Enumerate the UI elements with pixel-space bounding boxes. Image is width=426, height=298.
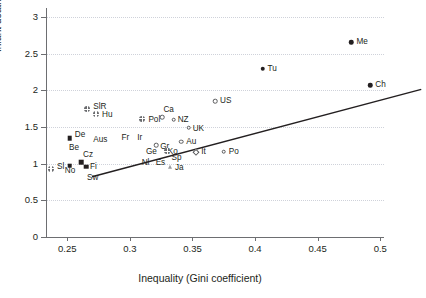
data-point-marker [154,143,159,148]
data-point-label: Fi [90,163,97,171]
y-tick-label: 2.5 [0,49,38,59]
data-point-marker [221,150,226,155]
data-point-label: Me [356,38,367,46]
data-point-marker [171,117,176,122]
data-point-label: It [201,148,206,156]
gridline [46,200,384,201]
x-tick-label: 0.45 [298,243,338,254]
y-axis-title: Infant deaths/1,000 (log scale) [0,0,3,52]
data-point-label: Cz [83,151,93,159]
data-point-label: Tu [268,65,277,73]
data-point-marker [168,165,172,169]
data-point-label: Ja [175,164,184,172]
data-point-marker [186,125,191,130]
data-point-marker [84,164,89,169]
x-axis-title: Inequality (Gini coefficient) [0,272,400,284]
data-point-marker [260,67,265,72]
data-point-label: No [65,167,75,175]
y-tick-label: 1.5 [0,122,38,132]
data-point-marker [48,166,54,172]
gridline [46,17,384,18]
data-point-label: Po [229,148,239,156]
x-tick-label: 0.5 [360,243,400,254]
data-point-label: Sl [57,163,64,171]
gridline [46,90,384,91]
data-point-marker [213,99,218,104]
data-point-marker [164,148,170,154]
data-point-label: Ge [146,148,157,156]
data-point-marker [93,111,99,117]
data-point-label: Be [69,144,79,152]
data-point-label: Ca [163,106,173,114]
data-point-label: Au [186,138,196,146]
data-point-label: Ch [375,81,385,89]
data-point-marker [349,40,354,45]
y-tick-label: 0.5 [0,195,38,205]
plot-area: SlNoDeBeCzFiSwSlRAusHuFrIrPolGeNlGrCaEsK… [46,8,384,237]
x-tick-label: 0.35 [172,243,212,254]
data-point-label: US [220,97,231,105]
data-point-marker [67,136,72,141]
data-point-label: Nl [142,159,150,167]
data-point-marker [84,106,90,112]
data-point-marker [193,149,199,155]
data-point-label: Aus [93,136,107,144]
data-point-marker [79,160,84,165]
data-point-label: Es [156,159,166,167]
y-tick-label: 2 [0,85,38,95]
x-tick-label: 0.4 [235,243,275,254]
trend-line [92,16,426,245]
x-tick-label: 0.25 [47,243,87,254]
data-point-marker [368,83,373,88]
data-point-label: Fr [122,134,130,142]
data-point-label: Pol [148,116,160,124]
data-point-label: De [75,131,85,139]
data-point-label: Ir [137,134,142,142]
x-axis-line [46,237,384,238]
data-point-label: Sp [171,154,181,162]
gridline [46,54,384,55]
y-tick-label: 0 [0,232,38,242]
data-point-label: Hu [102,111,112,119]
x-tick-label: 0.3 [110,243,150,254]
data-point-label: NZ [178,116,189,124]
y-tick-label: 3 [0,12,38,22]
y-tick-label: 1 [0,159,38,169]
y-axis-line [46,8,47,237]
data-point-marker [160,115,165,120]
data-point-marker [179,139,184,144]
data-point-marker [139,116,145,122]
data-point-label: Sw [87,174,98,182]
data-point-label: UK [193,125,204,133]
gridline [46,127,384,128]
